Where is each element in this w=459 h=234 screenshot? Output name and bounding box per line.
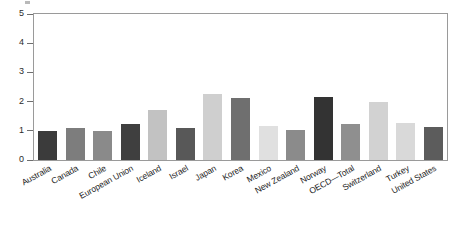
bar-slot [144, 14, 171, 160]
x-axis-labels: AustraliaCanadaChileEuropean UnionIcelan… [34, 161, 447, 234]
x-axis-label-slot: Turkey [392, 161, 420, 171]
y-axis-tick-label: 4 [0, 38, 24, 47]
y-axis-tick-label: 0 [0, 155, 24, 164]
bar-slot [172, 14, 199, 160]
bar [176, 128, 195, 160]
x-axis-label-slot: Chile [89, 161, 117, 171]
bar-slot [365, 14, 392, 160]
x-axis-label-slot: Canada [62, 161, 90, 171]
bar [369, 102, 388, 160]
bar-slot [310, 14, 337, 160]
bar [424, 127, 443, 160]
y-axis-tick [27, 14, 33, 15]
bar [148, 110, 167, 160]
y-axis-tick [27, 130, 33, 131]
y-axis-tick-label: 3 [0, 67, 24, 76]
bar-slot [420, 14, 447, 160]
x-axis-label-slot: United States [419, 161, 447, 171]
bar [203, 94, 222, 160]
y-axis-tick-label: 2 [0, 97, 24, 106]
x-axis-label-slot: New Zealand [282, 161, 310, 171]
bar-slot [282, 14, 309, 160]
bar-slot [392, 14, 419, 160]
x-axis-label-slot: OECD—Total [337, 161, 365, 171]
bar-slot [255, 14, 282, 160]
y-axis-tick [27, 43, 33, 44]
bar-chart: 012345 AustraliaCanadaChileEuropean Unio… [0, 0, 459, 234]
bar [314, 97, 333, 160]
y-axis-tick [27, 160, 33, 161]
x-axis-label: Australia [20, 163, 53, 187]
bar [121, 124, 140, 161]
bar-slot [227, 14, 254, 160]
bar-slot [117, 14, 144, 160]
bar-slot [62, 14, 89, 160]
y-axis-tick [27, 72, 33, 73]
x-axis-label-slot: Switzerland [364, 161, 392, 171]
bar-slot [199, 14, 226, 160]
bar [396, 123, 415, 160]
x-axis-label-slot: Israel [172, 161, 200, 171]
x-axis-label-slot: Iceland [144, 161, 172, 171]
x-axis-label-slot: Japan [199, 161, 227, 171]
bar-series [34, 14, 447, 160]
bar-slot [337, 14, 364, 160]
y-axis-tick-label: 5 [0, 9, 24, 18]
bar-slot [34, 14, 61, 160]
bar [231, 98, 250, 160]
y-axis-tick-label: 1 [0, 126, 24, 135]
x-axis-label-slot: Norway [309, 161, 337, 171]
bar [259, 126, 278, 160]
bar [66, 128, 85, 160]
bar [286, 130, 305, 160]
bar [93, 131, 112, 160]
bar [341, 124, 360, 161]
x-axis-label-slot: Australia [34, 161, 62, 171]
x-axis-label-slot: Korea [227, 161, 255, 171]
y-axis-tick [27, 101, 33, 102]
crop-artifact [25, 1, 30, 4]
bar [38, 131, 57, 160]
x-axis-label-slot: Mexico [254, 161, 282, 171]
x-axis-label: Israel [168, 163, 191, 182]
x-axis-label-slot: European Union [117, 161, 145, 171]
bar-slot [89, 14, 116, 160]
